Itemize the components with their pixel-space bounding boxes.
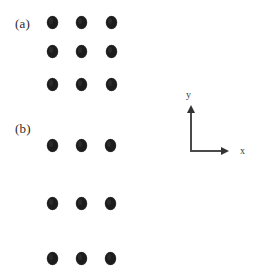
- dot-marker: [106, 78, 117, 91]
- y-axis-line: [190, 113, 192, 151]
- x-axis-line: [190, 150, 222, 152]
- dot-marker: [76, 78, 87, 91]
- dot-marker: [47, 78, 58, 91]
- dot-marker: [47, 252, 58, 265]
- dot-marker: [47, 197, 58, 210]
- dot-marker: [76, 197, 87, 210]
- dot-marker: [105, 252, 116, 265]
- dot-marker: [47, 45, 58, 58]
- dot-marker: [76, 16, 87, 29]
- x-axis-arrowhead-icon: [221, 147, 229, 155]
- dot-marker: [76, 252, 87, 265]
- dot-marker: [106, 45, 117, 58]
- dot-marker: [105, 197, 116, 210]
- x-axis-label: x: [240, 146, 245, 156]
- y-axis-arrowhead-icon: [187, 105, 195, 113]
- figure-canvas: (a) (b) y x: [0, 0, 266, 277]
- panel-label-a: (a): [15, 17, 30, 30]
- dot-marker: [76, 45, 87, 58]
- y-axis-label: y: [186, 90, 191, 100]
- dot-marker: [106, 16, 117, 29]
- dot-marker: [47, 139, 58, 152]
- dot-marker: [76, 139, 87, 152]
- dot-marker: [47, 16, 58, 29]
- dot-marker: [105, 139, 116, 152]
- panel-label-b: (b): [15, 122, 31, 135]
